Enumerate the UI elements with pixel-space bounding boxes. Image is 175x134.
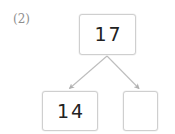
arrow-to-left-part [70, 56, 108, 89]
problem-number-label: (2) [13, 12, 30, 26]
total-box[interactable]: 17 [79, 14, 136, 55]
part-left-value: 14 [55, 102, 85, 121]
part-box-right-answer-blank[interactable] [123, 91, 158, 131]
arrow-to-right-part [107, 56, 139, 89]
part-box-left[interactable]: 14 [42, 91, 98, 131]
total-value: 17 [92, 25, 122, 44]
number-bond-diagram: (2) 17 14 [0, 0, 175, 134]
